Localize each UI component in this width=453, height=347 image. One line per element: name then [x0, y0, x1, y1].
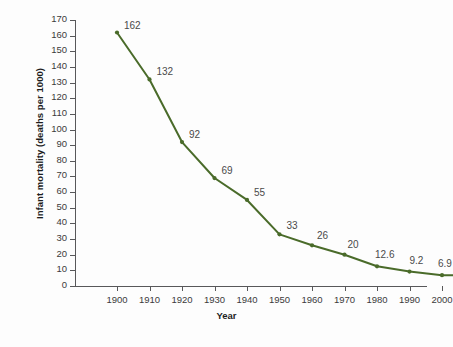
x-tick-label: 1910	[139, 294, 160, 305]
x-tick-label: 1990	[399, 294, 420, 305]
y-tick-label: 140	[51, 60, 67, 71]
data-point-label: 132	[157, 66, 174, 77]
data-point-label: 55	[254, 187, 265, 198]
x-tick-label: 1920	[171, 294, 192, 305]
chart-figure: Infant mortality (deaths per 1000) 17016…	[0, 0, 453, 347]
y-tick-label: 120	[51, 91, 67, 102]
data-point-label: 6.9	[438, 258, 452, 269]
x-tick-label: 1940	[236, 294, 257, 305]
y-tick-label: 90	[56, 138, 67, 149]
y-tick-label: 100	[51, 123, 67, 134]
x-tick-label: 1980	[366, 294, 387, 305]
x-tick-label: 1960	[301, 294, 322, 305]
data-point-label: 20	[348, 239, 359, 250]
data-point-label: 9.2	[410, 255, 424, 266]
data-point-label: 162	[124, 20, 141, 31]
plot-area: 1701601501401301201101009080706050403020…	[75, 20, 427, 287]
x-axis-title: Year	[0, 310, 453, 321]
y-tick-label: 30	[56, 232, 67, 243]
y-tick-label: 50	[56, 201, 67, 212]
y-tick-label: 110	[52, 107, 67, 118]
y-tick-label: 170	[51, 13, 67, 24]
y-tick-label: 80	[56, 154, 67, 165]
x-tick-label: 1930	[204, 294, 225, 305]
data-point-label: 33	[287, 220, 298, 231]
data-point-label: 12.6	[375, 249, 394, 260]
series-line	[75, 20, 427, 287]
y-tick-label: 40	[56, 216, 67, 227]
y-tick-label: 0	[62, 279, 67, 290]
y-tick-label: 60	[56, 185, 67, 196]
y-tick-label: 20	[56, 248, 67, 259]
y-axis-title: Infant mortality (deaths per 1000)	[34, 24, 45, 264]
x-tick	[442, 286, 443, 291]
x-tick-label: 2000	[431, 294, 452, 305]
data-point-label: 92	[189, 129, 200, 140]
x-tick-label: 1970	[334, 294, 355, 305]
x-tick-label: 1950	[269, 294, 290, 305]
x-tick-label: 1900	[106, 294, 127, 305]
y-tick-label: 160	[51, 29, 67, 40]
y-tick-label: 150	[51, 44, 67, 55]
data-point-label: 26	[317, 230, 328, 241]
y-tick-label: 10	[56, 263, 67, 274]
y-tick-label: 70	[56, 169, 67, 180]
data-point-label: 69	[222, 165, 233, 176]
y-tick-label: 130	[51, 76, 67, 87]
